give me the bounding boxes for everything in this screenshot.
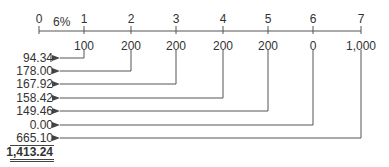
cash-flow-amount: 1,000 bbox=[346, 40, 376, 52]
timeline-ticks bbox=[39, 26, 361, 34]
period-label: 6 bbox=[310, 13, 317, 25]
period-label: 1 bbox=[81, 13, 88, 25]
present-value: 178.00 bbox=[16, 65, 53, 77]
present-value: 665.10 bbox=[16, 132, 53, 144]
interest-rate-label: 6% bbox=[53, 16, 70, 28]
period-label: 0 bbox=[36, 13, 43, 25]
period-label: 3 bbox=[173, 13, 180, 25]
present-value: 158.42 bbox=[16, 92, 53, 104]
present-value: 0.00 bbox=[30, 119, 53, 131]
cash-flow-amount: 200 bbox=[258, 40, 278, 52]
cash-flow-amount: 200 bbox=[213, 40, 233, 52]
total-rule-double-2 bbox=[10, 161, 54, 162]
present-value: 94.34 bbox=[23, 52, 53, 64]
period-label: 2 bbox=[128, 13, 135, 25]
present-value: 167.92 bbox=[16, 78, 53, 90]
cash-flow-amount: 0 bbox=[310, 40, 317, 52]
period-label: 4 bbox=[220, 13, 227, 25]
period-label: 7 bbox=[358, 13, 365, 25]
cash-flow-timeline-diagram: 0 1 2 3 4 5 6 7 6% 100 200 200 200 200 0… bbox=[0, 0, 389, 167]
total-rule-double-1 bbox=[10, 159, 54, 160]
total-present-value: 1,413.24 bbox=[6, 146, 53, 158]
cash-flow-amount: 200 bbox=[121, 40, 141, 52]
cash-flow-amount: 100 bbox=[74, 40, 94, 52]
discount-arrows bbox=[60, 50, 361, 138]
present-value: 149.46 bbox=[16, 105, 53, 117]
period-label: 5 bbox=[265, 13, 272, 25]
cash-flow-amount: 200 bbox=[166, 40, 186, 52]
